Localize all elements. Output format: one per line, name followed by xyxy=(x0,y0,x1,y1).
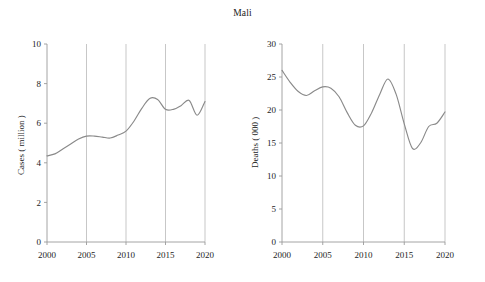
chart-panel-cases: 024681020002005201020152020 xyxy=(0,30,245,282)
x-tick-label: 2005 xyxy=(314,250,333,260)
y-axis-label-cases: Cases ( million ) xyxy=(16,115,26,175)
y-tick-label: 25 xyxy=(267,72,277,82)
y-tick-label: 0 xyxy=(37,237,42,247)
chart-panel-deaths: 05101520253020002005201020152020 xyxy=(238,30,485,282)
y-tick-label: 0 xyxy=(272,237,277,247)
x-tick-label: 2015 xyxy=(157,250,176,260)
x-tick-label: 2005 xyxy=(78,250,97,260)
y-axis-label-deaths: Deaths ( 000 ) xyxy=(250,117,260,168)
y-tick-label: 10 xyxy=(267,171,277,181)
y-tick-label: 20 xyxy=(267,105,277,115)
x-tick-label: 2015 xyxy=(395,250,414,260)
x-tick-label: 2000 xyxy=(38,250,57,260)
y-tick-label: 10 xyxy=(32,39,42,49)
x-tick-label: 2020 xyxy=(196,250,215,260)
y-tick-label: 15 xyxy=(267,138,277,148)
figure-container: Mali 024681020002005201020152020 0510152… xyxy=(0,0,485,282)
y-tick-label: 6 xyxy=(37,118,42,128)
y-tick-label: 8 xyxy=(37,79,42,89)
x-tick-label: 2000 xyxy=(273,250,292,260)
x-tick-label: 2020 xyxy=(436,250,455,260)
cases-line-chart: 024681020002005201020152020 xyxy=(0,30,245,282)
deaths-line-chart: 05101520253020002005201020152020 xyxy=(238,30,485,282)
x-tick-label: 2010 xyxy=(355,250,374,260)
chart-title: Mali xyxy=(0,8,485,18)
y-tick-label: 2 xyxy=(37,198,42,208)
y-tick-label: 30 xyxy=(267,39,277,49)
x-tick-label: 2010 xyxy=(117,250,136,260)
y-tick-label: 4 xyxy=(37,158,42,168)
y-tick-label: 5 xyxy=(272,204,277,214)
